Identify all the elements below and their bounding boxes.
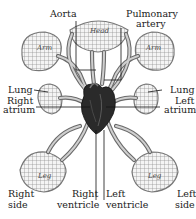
left-ventricle-label-line2: ventricle xyxy=(105,199,149,210)
right-side-label-line2: side xyxy=(8,199,28,210)
lung-label-right: Lung xyxy=(170,84,195,95)
leg-right-capillary-network: Leg xyxy=(132,152,178,192)
left-side-label-line2: side xyxy=(175,199,195,210)
leg-left-label: Leg xyxy=(37,172,52,180)
right-ventricle-label-line1: Right xyxy=(72,188,98,199)
arm-right-label: Arm xyxy=(145,44,161,52)
circulation-diagram: Head Arm Arm Leg Leg xyxy=(0,0,196,219)
pulmonary-artery-label-line2: artery xyxy=(136,18,166,29)
left-ventricle-label-line1: Left xyxy=(106,188,125,199)
arm-left-label: Arm xyxy=(36,44,52,52)
right-atrium-label-line2: atrium xyxy=(3,104,35,115)
left-side-label-line1: Left xyxy=(177,188,196,199)
head-label: Head xyxy=(89,27,109,35)
aorta-label: Aorta xyxy=(49,8,77,19)
leg-right-label: Leg xyxy=(147,172,162,180)
lung-label-left: Lung xyxy=(8,84,33,95)
arm-right-capillary-network: Arm xyxy=(135,32,174,70)
head-capillary-network: Head xyxy=(70,21,128,52)
right-ventricle-label-line2: ventricle xyxy=(56,199,100,210)
right-side-label-line1: Right xyxy=(8,188,34,199)
left-atrium-label-line2: atrium xyxy=(164,104,196,115)
arm-left-capillary-network: Arm xyxy=(22,32,61,71)
leg-left-capillary-network: Leg xyxy=(20,152,66,192)
